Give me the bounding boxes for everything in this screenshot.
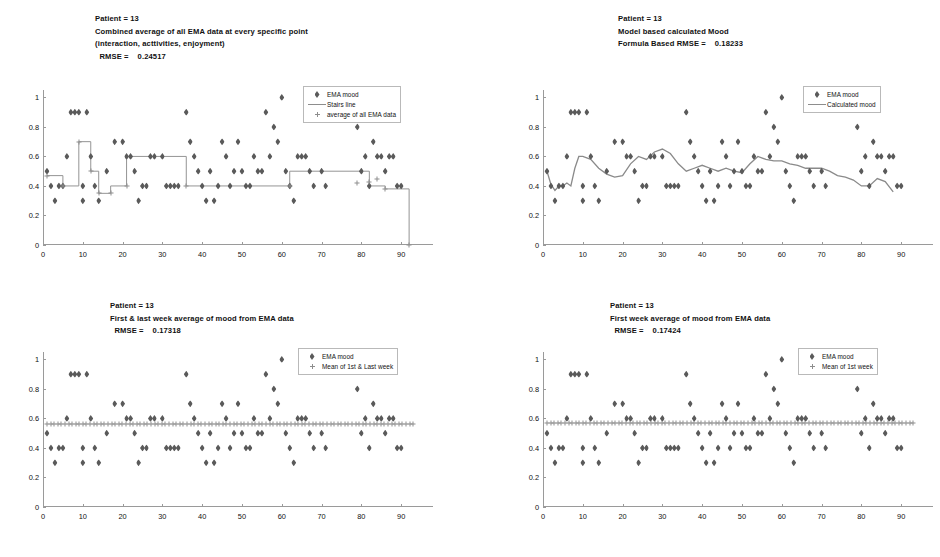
- data-point-marker: [560, 444, 565, 451]
- data-point-marker: [355, 385, 360, 392]
- data-point-marker: [176, 444, 181, 451]
- data-point-marker: [604, 430, 609, 437]
- mean-plus-marker: [411, 421, 416, 426]
- y-tick-label: 1: [21, 355, 39, 364]
- legend-label: Stairs line: [327, 101, 356, 108]
- x-tick: [162, 504, 163, 507]
- x-tick-label: 50: [238, 512, 246, 521]
- legend-item[interactable]: EMA mood: [802, 352, 873, 361]
- x-tick-label: 10: [579, 250, 587, 259]
- plus-marker-icon: [310, 364, 315, 369]
- average-plus-marker: [60, 183, 65, 188]
- x-tick-label: 10: [579, 512, 587, 521]
- x-tick-label: 0: [541, 250, 545, 259]
- line-sample-icon: [808, 104, 826, 105]
- y-tick-label: 1: [521, 93, 539, 102]
- panel-top-left: Patient = 13Combined average of all EMA …: [0, 0, 470, 278]
- y-tick: [43, 359, 46, 360]
- title-line: (interaction, acttivities, enjoyment): [95, 38, 308, 51]
- x-tick-label: 40: [198, 512, 206, 521]
- y-tick-label: 1: [21, 93, 39, 102]
- data-point-marker: [708, 430, 713, 437]
- mean-plus-marker: [911, 420, 916, 425]
- average-plus-marker: [88, 169, 93, 174]
- x-tick-label: 60: [778, 512, 786, 521]
- title-line: RMSE = 0.24517: [95, 51, 308, 64]
- panel-title-top-left: Patient = 13Combined average of all EMA …: [95, 13, 308, 63]
- legend-item[interactable]: EMA mood: [307, 90, 396, 99]
- data-point-marker: [204, 459, 209, 466]
- y-tick-label: 0.2: [21, 211, 39, 220]
- data-point-marker: [771, 385, 776, 392]
- y-tick-label: 0.4: [521, 181, 539, 190]
- data-point-marker: [779, 356, 784, 363]
- x-tick-label: 30: [658, 250, 666, 259]
- plot-area-top-right: 010203040506070809000.20.40.60.81: [543, 90, 933, 245]
- legend-label: EMA mood: [827, 91, 859, 98]
- data-point-marker: [584, 371, 589, 378]
- data-point-marker: [859, 430, 864, 437]
- x-tick-label: 40: [198, 250, 206, 259]
- x-tick-label: 80: [857, 512, 865, 521]
- data-point-marker: [132, 430, 137, 437]
- data-point-marker: [212, 459, 217, 466]
- data-point-marker: [688, 400, 693, 407]
- data-point-marker: [684, 371, 689, 378]
- data-point-marker: [612, 400, 617, 407]
- average-plus-marker: [184, 183, 189, 188]
- y-tick: [543, 245, 546, 246]
- x-tick-label: 70: [817, 512, 825, 521]
- x-tick-label: 20: [618, 250, 626, 259]
- y-tick-label: 0: [21, 241, 39, 250]
- data-point-marker: [676, 444, 681, 451]
- y-tick: [543, 477, 546, 478]
- legend-item[interactable]: EMA mood: [302, 352, 393, 361]
- data-point-marker: [700, 444, 705, 451]
- x-tick: [202, 504, 203, 507]
- data-point-marker: [60, 444, 65, 451]
- legend-item[interactable]: Mean of 1st week: [802, 362, 873, 371]
- x-tick: [123, 504, 124, 507]
- data-point-marker: [736, 400, 741, 407]
- legend-item[interactable]: Stairs line: [307, 100, 396, 109]
- title-line: First week average of mood from EMA data: [610, 313, 770, 326]
- data-point-marker: [620, 400, 625, 407]
- x-tick-label: 70: [317, 512, 325, 521]
- calculated-mood-line: [543, 90, 933, 245]
- legend-item[interactable]: EMA mood: [807, 90, 876, 99]
- y-tick-label: 0.8: [21, 384, 39, 393]
- panel-title-top-right: Patient = 13Model based calculated MoodF…: [618, 13, 743, 51]
- legend-item[interactable]: Calculated mood: [807, 100, 876, 109]
- title-line: RMSE = 0.17424: [610, 325, 770, 338]
- y-tick-label: 0: [521, 503, 539, 512]
- x-tick-label: 40: [698, 512, 706, 521]
- data-point-marker: [208, 430, 213, 437]
- data-point-marker: [544, 430, 549, 437]
- title-line: First & last week average of mood from E…: [110, 313, 294, 326]
- figure-canvas: Patient = 13Combined average of all EMA …: [0, 0, 940, 557]
- data-point-marker: [580, 444, 585, 451]
- y-tick-label: 0.8: [521, 122, 539, 131]
- axes: 010203040506070809000.20.40.60.81: [43, 352, 433, 507]
- x-tick-label: 70: [817, 250, 825, 259]
- plot-area-bottom-left: 010203040506070809000.20.40.60.81: [43, 352, 433, 507]
- legend-item[interactable]: average of all EMA data: [307, 110, 396, 119]
- y-tick: [43, 389, 46, 390]
- y-tick: [543, 389, 546, 390]
- y-tick: [543, 359, 546, 360]
- data-point-marker: [220, 400, 225, 407]
- data-point-marker: [899, 444, 904, 451]
- data-point-marker: [747, 444, 752, 451]
- data-point-marker: [291, 459, 296, 466]
- legend-label: EMA mood: [322, 353, 354, 360]
- x-tick-label: 80: [357, 250, 365, 259]
- data-point-marker: [399, 444, 404, 451]
- data-point-marker: [144, 444, 149, 451]
- y-tick-label: 0.6: [521, 152, 539, 161]
- data-point-marker: [76, 371, 81, 378]
- data-point-marker: [307, 430, 312, 437]
- legend-item[interactable]: Mean of 1st & Last week: [302, 362, 393, 371]
- data-point-marker: [592, 444, 597, 451]
- data-point-marker: [867, 444, 872, 451]
- x-tick-label: 80: [357, 512, 365, 521]
